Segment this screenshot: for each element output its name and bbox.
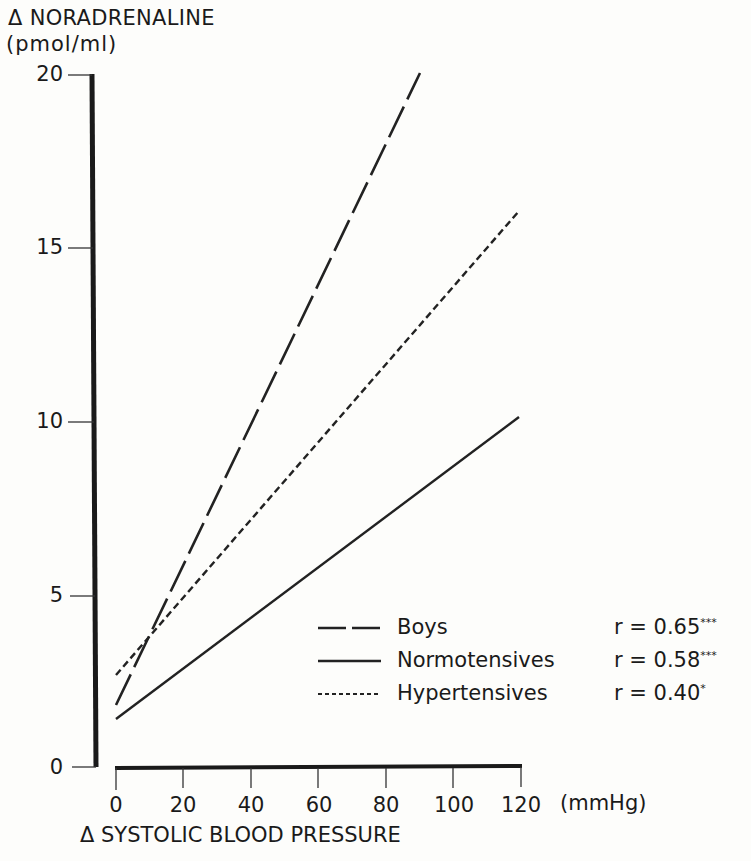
legend-label-normotensives: Normotensives [397,648,555,672]
legend-r-hypertensives: r = 0.40* [614,681,706,705]
legend-r-boys: r = 0.65*** [614,615,717,639]
plot-area [0,0,751,861]
legend-label-hypertensives: Hypertensives [397,681,548,705]
y-axis-line [92,74,96,767]
x-ticks [116,767,521,790]
x-axis-line [115,766,522,768]
series-boys-line [116,73,420,705]
series-normotensives-line [116,417,519,719]
legend-label-boys: Boys [397,615,448,639]
series-hypertensives-line [116,211,519,675]
legend-r-normotensives: r = 0.58*** [614,648,717,672]
